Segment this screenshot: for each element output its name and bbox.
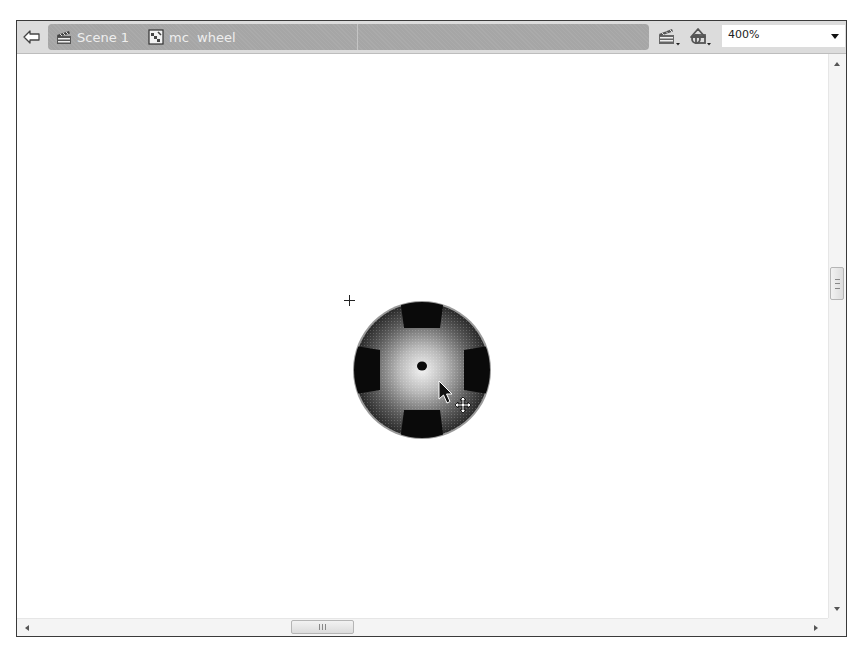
breadcrumb-label: mc wheel bbox=[169, 30, 236, 45]
stage-canvas[interactable] bbox=[17, 54, 828, 619]
breadcrumb-scene-1[interactable]: Scene 1 bbox=[56, 28, 129, 46]
zoom-level-dropdown[interactable]: 400% bbox=[722, 25, 845, 47]
scroll-right-arrow-icon[interactable] bbox=[814, 625, 818, 631]
horizontal-scrollbar[interactable] bbox=[17, 618, 828, 636]
breadcrumb-mc-wheel[interactable]: mc wheel bbox=[148, 28, 236, 46]
edit-bar: Scene 1 mc wheel bbox=[17, 21, 846, 54]
scroll-down-arrow-icon[interactable] bbox=[834, 607, 840, 611]
grip-icon bbox=[835, 279, 840, 289]
breadcrumb-divider bbox=[357, 24, 358, 50]
wheel-movie-clip[interactable] bbox=[352, 300, 492, 440]
back-arrow-icon bbox=[23, 30, 41, 44]
chevron-down-icon[interactable] bbox=[831, 34, 839, 39]
movieclip-symbol-icon bbox=[148, 29, 164, 45]
scroll-up-arrow-icon[interactable] bbox=[834, 62, 840, 66]
grip-icon bbox=[319, 624, 326, 630]
stage-window: Scene 1 mc wheel bbox=[16, 20, 847, 637]
zoom-level-value: 400% bbox=[728, 28, 759, 41]
breadcrumb-label: Scene 1 bbox=[77, 30, 129, 45]
vertical-scrollbar[interactable] bbox=[828, 54, 846, 619]
edit-symbols-button[interactable] bbox=[688, 26, 714, 48]
scroll-left-arrow-icon[interactable] bbox=[25, 625, 29, 631]
horizontal-scroll-thumb[interactable] bbox=[291, 620, 354, 634]
scrollbar-corner bbox=[828, 618, 846, 636]
breadcrumb: Scene 1 mc wheel bbox=[48, 24, 649, 50]
back-button[interactable] bbox=[21, 26, 43, 48]
edit-scene-button[interactable] bbox=[657, 26, 683, 48]
vertical-scroll-thumb[interactable] bbox=[830, 267, 844, 300]
clapperboard-dropdown-icon bbox=[657, 26, 683, 48]
scene-clapperboard-icon bbox=[56, 29, 72, 45]
symbols-dropdown-icon bbox=[688, 26, 714, 48]
